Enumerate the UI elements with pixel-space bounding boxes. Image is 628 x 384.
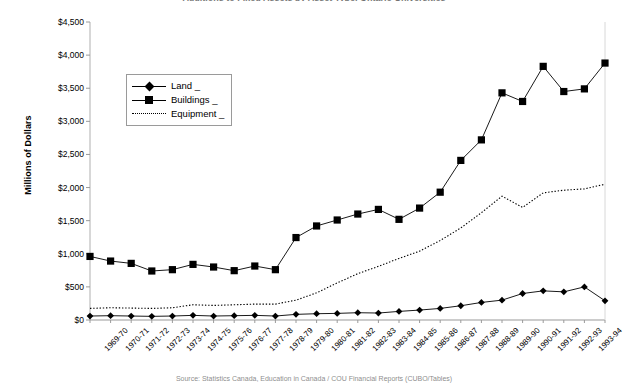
legend-key-equipment-dotted-icon [132,109,166,119]
legend-label-buildings: Buildings _ [171,93,217,107]
legend-label-land: Land _ [171,79,200,93]
legend-key-buildings-square-icon [132,95,166,105]
legend-item-equipment: Equipment _ [132,107,224,121]
legend-item-land: Land _ [132,79,224,93]
legend-item-buildings: Buildings _ [132,93,224,107]
legend-label-equipment: Equipment _ [171,107,224,121]
chart-legend: Land _ Buildings _ Equipment _ [126,74,232,126]
chart-caption: Source: Statistics Canada, Education in … [0,375,628,384]
legend-key-land-diamond-icon [132,81,166,91]
